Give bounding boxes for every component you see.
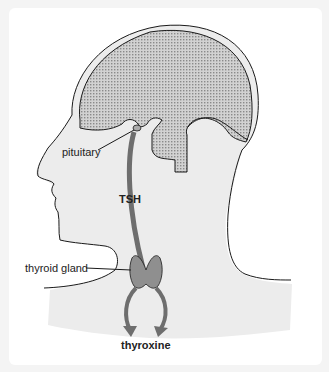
diagram-frame: pituitary TSH thyroid gland thyroxine <box>0 0 329 372</box>
tsh-label: TSH <box>119 193 141 205</box>
thyroid-gland-label: thyroid gland <box>25 262 88 274</box>
thyroxine-label: thyroxine <box>121 339 171 351</box>
anatomy-illustration <box>0 0 329 372</box>
pituitary-label: pituitary <box>62 146 101 158</box>
pituitary-gland <box>133 125 141 131</box>
